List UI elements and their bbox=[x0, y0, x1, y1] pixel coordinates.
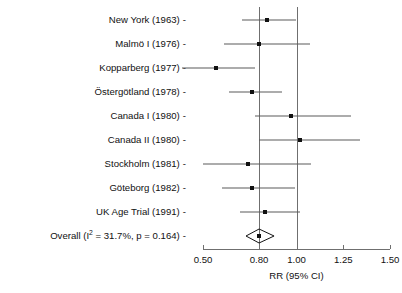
x-axis-tick bbox=[343, 245, 344, 249]
effect-estimate-marker bbox=[263, 210, 267, 214]
effect-estimate-marker bbox=[214, 66, 218, 70]
x-axis-tick bbox=[297, 245, 298, 249]
confidence-interval-line bbox=[224, 44, 310, 45]
x-axis-tick bbox=[390, 245, 391, 249]
x-axis-tick-label: 0.80 bbox=[250, 255, 269, 265]
effect-estimate-marker bbox=[289, 114, 293, 118]
effect-estimate-marker bbox=[298, 138, 302, 142]
forest-plot: New York (1963)-Malmö I (1976)-Kopparber… bbox=[0, 0, 402, 293]
effect-estimate-marker bbox=[257, 42, 261, 46]
x-axis-title: RR (95% CI) bbox=[269, 271, 323, 281]
effect-estimate-marker bbox=[250, 186, 254, 190]
x-axis-tick-label: 1.25 bbox=[334, 255, 353, 265]
overall-effect-marker bbox=[257, 234, 261, 238]
x-axis-tick-label: 1.50 bbox=[381, 255, 400, 265]
x-axis-line bbox=[203, 249, 390, 250]
confidence-interval-line bbox=[222, 188, 295, 189]
confidence-interval-line bbox=[259, 140, 360, 141]
effect-estimate-marker bbox=[246, 162, 250, 166]
x-axis-tick-label: 1.00 bbox=[287, 255, 306, 265]
confidence-interval-line bbox=[229, 92, 281, 93]
effect-estimate-marker bbox=[265, 18, 269, 22]
effect-estimate-marker bbox=[250, 90, 254, 94]
confidence-interval-line bbox=[255, 116, 350, 117]
x-axis-tick bbox=[259, 245, 260, 249]
confidence-interval-line bbox=[203, 164, 311, 165]
x-axis-tick-label: 0.50 bbox=[194, 255, 213, 265]
plot-area: 0.500.801.001.251.50RR (95% CI) bbox=[0, 0, 402, 293]
confidence-interval-line bbox=[240, 212, 300, 213]
confidence-interval-line bbox=[182, 68, 255, 69]
x-axis-tick bbox=[203, 245, 204, 249]
confidence-interval-line bbox=[242, 20, 296, 21]
